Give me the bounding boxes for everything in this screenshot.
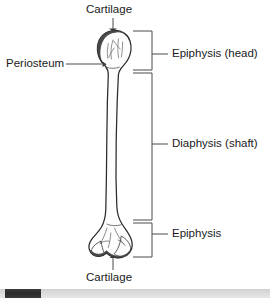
bracket-epiphysis-head	[133, 31, 152, 70]
label-diaphysis: Diaphysis (shaft)	[172, 138, 258, 150]
label-epiphysis-head: Epiphysis (head)	[172, 48, 258, 60]
label-periosteum: Periosteum	[6, 58, 64, 70]
bracket-diaphysis	[133, 73, 152, 220]
region-brackets	[133, 31, 152, 257]
label-cartilage-bottom: Cartilage	[86, 272, 132, 284]
bone-outline	[89, 30, 132, 257]
bracket-epiphysis-distal	[133, 223, 152, 257]
label-epiphysis-distal: Epiphysis	[172, 228, 221, 240]
horizontal-scrollbar-track[interactable]	[0, 288, 270, 298]
diagram-page: Cartilage Periosteum Epiphysis (head) Di…	[0, 0, 270, 299]
label-cartilage-top: Cartilage	[86, 4, 132, 16]
horizontal-scrollbar-thumb[interactable]	[5, 289, 41, 298]
